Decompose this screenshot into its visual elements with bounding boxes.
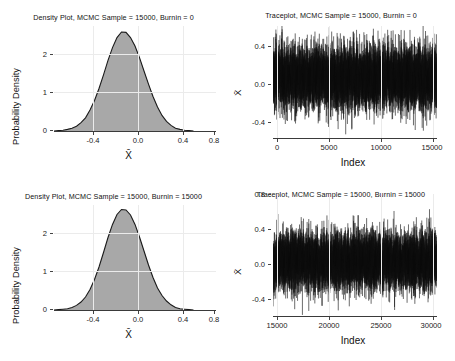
x-tick-mark (93, 311, 94, 314)
x-tick-label: 10000 (370, 143, 391, 152)
x-axis-title: X̄ (40, 329, 217, 340)
x-tick-label: 0.0 (133, 315, 144, 324)
panel-density-burnin-15000: Density Plot, MCMC Sample = 15000, Burni… (0, 181, 227, 361)
y-axis-title: X̄ (232, 90, 243, 96)
y-tick-label: 2 (0, 50, 47, 59)
panel-title: Traceplot, MCMC Sample = 15000, Burnin =… (227, 11, 455, 20)
x-axis-title: X̄ (40, 150, 217, 161)
y-tick-mark (268, 264, 271, 265)
x-tick-label: 30000 (420, 321, 441, 330)
gridline (93, 26, 94, 131)
y-tick-label: 0.0 (219, 260, 265, 269)
gridline (183, 205, 184, 310)
x-tick-label: -0.4 (86, 136, 99, 145)
figure-grid: Density Plot, MCMC Sample = 15000, Burni… (0, 0, 455, 361)
x-tick-label: 0.8 (209, 136, 220, 145)
panel-trace-burnin-15000: Traceplot, MCMC Sample = 15000, Burnin =… (227, 181, 455, 361)
y-tick-mark (268, 122, 271, 123)
x-tick-mark (381, 139, 382, 142)
y-tick-mark (50, 271, 53, 272)
y-axis-title: X̄ (232, 269, 243, 275)
density-curve (54, 26, 216, 131)
x-tick-mark (183, 132, 184, 135)
gridline (277, 26, 278, 138)
gridline (381, 194, 382, 316)
x-axis-line (54, 131, 216, 132)
x-tick-label: 0.4 (178, 315, 189, 324)
gridline (54, 92, 216, 93)
x-tick-mark (381, 317, 382, 320)
x-tick-mark (214, 132, 215, 135)
gridline (381, 26, 382, 138)
y-tick-mark (268, 194, 271, 195)
y-tick-label: 0.8 (219, 190, 265, 199)
y-tick-mark (50, 233, 53, 234)
x-tick-label: 5000 (321, 143, 338, 152)
panel-trace-burnin-0: Traceplot, MCMC Sample = 15000, Burnin =… (227, 0, 455, 181)
y-tick-label: 0 (0, 126, 47, 135)
x-tick-mark (277, 317, 278, 320)
x-tick-label: 0.0 (133, 136, 144, 145)
y-tick-label: 0.0 (219, 80, 265, 89)
gridline (329, 26, 330, 138)
x-tick-mark (93, 132, 94, 135)
y-tick-label: 0.4 (219, 225, 265, 234)
plot-area (54, 205, 216, 310)
x-tick-label: 15000 (421, 143, 442, 152)
x-tick-label: 20000 (318, 321, 339, 330)
gridline (93, 205, 94, 310)
y-tick-mark (50, 130, 53, 131)
x-tick-label: -0.4 (86, 315, 99, 324)
y-tick-label: 0 (0, 305, 47, 314)
x-axis-title: Index (257, 157, 449, 168)
gridline (54, 271, 216, 272)
plot-area (273, 194, 437, 316)
gridline (433, 26, 434, 138)
x-tick-mark (277, 139, 278, 142)
y-tick-mark (50, 92, 53, 93)
y-tick-label: 2 (0, 229, 47, 238)
gridline (54, 54, 216, 55)
y-tick-label: 1 (0, 267, 47, 276)
x-tick-label: 15000 (266, 321, 287, 330)
panel-density-burnin-0: Density Plot, MCMC Sample = 15000, Burni… (0, 0, 227, 181)
x-tick-mark (214, 311, 215, 314)
x-tick-mark (433, 139, 434, 142)
y-tick-mark (268, 84, 271, 85)
gridline (138, 205, 139, 310)
gridline (138, 26, 139, 131)
x-tick-label: 0.8 (209, 315, 220, 324)
gridline (433, 194, 434, 316)
x-tick-label: 0 (275, 143, 279, 152)
x-tick-mark (329, 317, 330, 320)
x-axis-line (54, 310, 216, 311)
x-tick-label: 25000 (370, 321, 391, 330)
y-tick-mark (50, 54, 53, 55)
x-tick-label: 0.4 (178, 136, 189, 145)
y-tick-mark (50, 309, 53, 310)
y-tick-label: 0.4 (219, 42, 265, 51)
x-tick-mark (329, 139, 330, 142)
x-axis-title: Index (257, 335, 449, 346)
plot-area (273, 26, 437, 138)
gridline (277, 194, 278, 316)
y-tick-label: -0.4 (219, 118, 265, 127)
panel-title: Density Plot, MCMC Sample = 15000, Burni… (0, 192, 227, 201)
y-tick-label: 1 (0, 88, 47, 97)
x-tick-mark (183, 311, 184, 314)
y-tick-mark (268, 46, 271, 47)
x-tick-mark (138, 132, 139, 135)
gridline (54, 233, 216, 234)
trace-line (273, 194, 437, 316)
x-tick-mark (433, 317, 434, 320)
y-tick-mark (268, 229, 271, 230)
x-axis-line (273, 316, 437, 317)
panel-title: Density Plot, MCMC Sample = 15000, Burni… (0, 13, 227, 22)
x-axis-line (273, 138, 437, 139)
density-curve (54, 205, 216, 310)
y-tick-label: -0.4 (219, 295, 265, 304)
trace-line (273, 26, 437, 138)
gridline (183, 26, 184, 131)
x-tick-mark (138, 311, 139, 314)
plot-area (54, 26, 216, 131)
